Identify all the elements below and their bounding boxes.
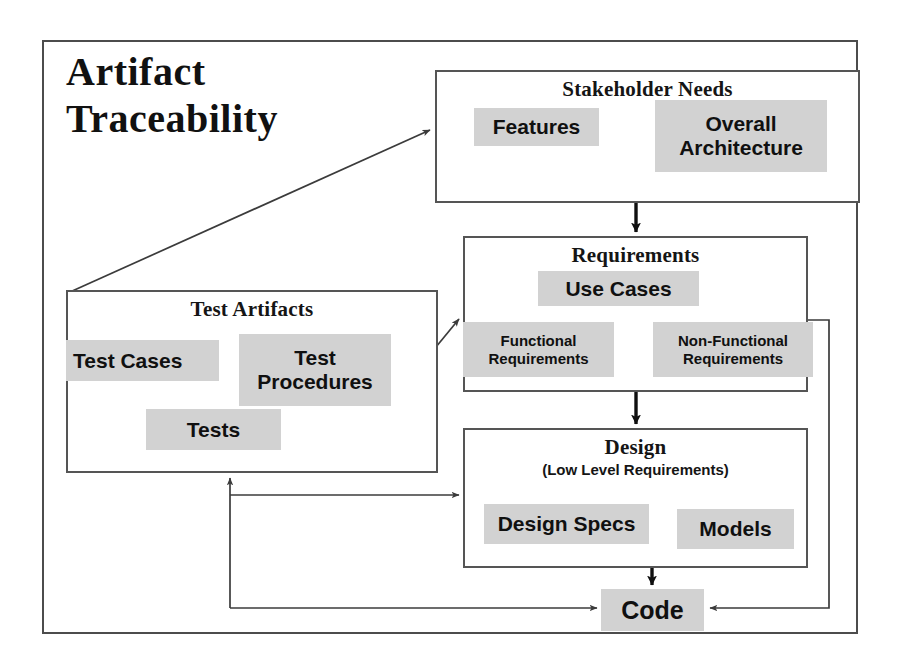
chip-test-procedures[interactable]: Test Procedures — [239, 334, 391, 406]
chip-models[interactable]: Models — [677, 509, 794, 549]
diagram-title-text: Artifact Traceability — [66, 49, 278, 141]
chip-tests[interactable]: Tests — [146, 409, 281, 450]
node-stakeholder-needs[interactable]: Stakeholder Needs Features Overall Archi… — [435, 70, 860, 203]
node-requirements-title: Requirements — [465, 243, 806, 268]
chip-features[interactable]: Features — [474, 108, 599, 146]
node-design-title: Design — [465, 435, 806, 460]
node-requirements[interactable]: Requirements Use Cases Functional Requir… — [463, 236, 808, 392]
chip-design-specs[interactable]: Design Specs — [484, 504, 649, 544]
node-stakeholder-needs-title: Stakeholder Needs — [437, 77, 858, 102]
chip-non-functional-requirements[interactable]: Non-Functional Requirements — [653, 322, 813, 377]
page-title: Artifact Traceability — [66, 48, 396, 142]
node-test-artifacts[interactable]: Test Artifacts Test Cases Test Procedure… — [66, 290, 438, 473]
chip-functional-requirements[interactable]: Functional Requirements — [463, 322, 614, 377]
node-design-subtitle: (Low Level Requirements) — [465, 461, 806, 478]
node-design[interactable]: Design (Low Level Requirements) Design S… — [463, 428, 808, 568]
node-test-artifacts-title: Test Artifacts — [68, 297, 436, 322]
node-code-label: Code — [621, 596, 684, 625]
chip-use-cases[interactable]: Use Cases — [538, 271, 699, 306]
chip-overall-architecture[interactable]: Overall Architecture — [655, 100, 827, 172]
chip-test-cases[interactable]: Test Cases — [66, 340, 219, 381]
diagram-canvas: Artifact Traceability Stakehol — [0, 0, 902, 668]
node-code[interactable]: Code — [601, 589, 704, 631]
